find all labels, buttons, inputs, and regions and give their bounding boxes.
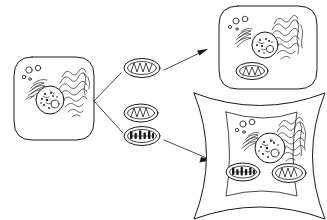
arrow-to-rounded-cell (164, 49, 208, 70)
arrow-to-star-cell (164, 140, 212, 163)
rounded-cell-nucleus (252, 32, 278, 58)
source-cell (14, 57, 94, 140)
resident-mitochondrion-dense (226, 163, 260, 181)
star-cell-nucleus (255, 133, 285, 163)
branching-bracket (94, 73, 123, 133)
received-mitochondrion (236, 63, 268, 80)
mitochondrion-middle (124, 104, 158, 122)
mitochondrion-top (124, 59, 160, 78)
received-mitochondrion-zigzag (272, 164, 306, 183)
star-shaped-target-cell (194, 93, 325, 219)
source-cell-nucleus (36, 86, 64, 114)
mitochondrion-bottom (124, 127, 160, 146)
cell-diagram-svg (0, 0, 327, 220)
rounded-target-cell (219, 6, 317, 89)
diagram-canvas (0, 0, 327, 220)
